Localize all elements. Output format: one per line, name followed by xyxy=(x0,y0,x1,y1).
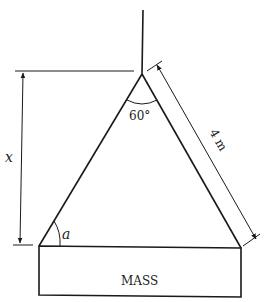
apex-angle-label: 60° xyxy=(129,109,150,123)
height-label: x xyxy=(5,149,13,165)
base-extension-line xyxy=(243,234,260,246)
apex-angle-arc xyxy=(127,100,157,104)
base-angle-arc xyxy=(54,221,60,246)
height-dimension-arrow xyxy=(20,73,23,243)
sling-diagram: x 60° a 4 m MASS xyxy=(0,0,268,302)
mass-box xyxy=(39,246,241,297)
length-dimension-arrow xyxy=(157,65,256,239)
left-sling xyxy=(39,74,142,246)
base-angle-label: a xyxy=(62,226,70,242)
mass-label: MASS xyxy=(121,274,158,288)
rope-line xyxy=(142,10,143,74)
length-label: 4 m xyxy=(207,127,231,154)
